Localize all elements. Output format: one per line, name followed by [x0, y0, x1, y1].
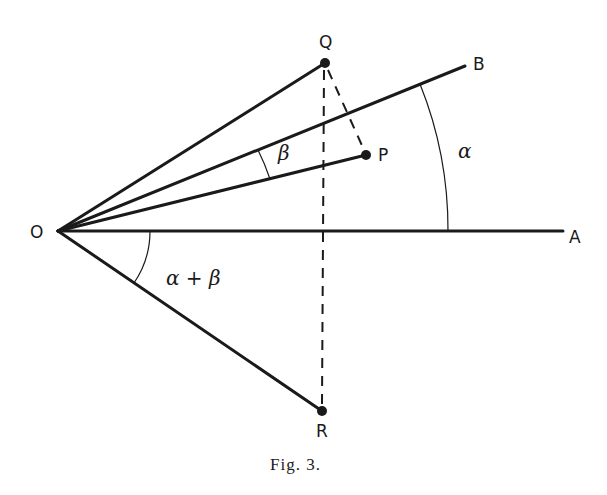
- figure-caption: Fig. 3.: [270, 455, 321, 474]
- label-beta: β: [277, 141, 290, 165]
- arc-alpha-plus-beta: [134, 231, 150, 283]
- label-b: B: [473, 54, 485, 74]
- point-p: [361, 150, 371, 160]
- arc-alpha: [420, 84, 448, 231]
- arc-beta: [258, 150, 270, 179]
- label-q: Q: [319, 32, 332, 52]
- segment-op: [58, 155, 366, 231]
- geometry-figure: O A B Q P R α β α + β Fig. 3.: [0, 0, 607, 495]
- label-a: A: [569, 227, 581, 247]
- label-r: R: [316, 421, 328, 441]
- label-alpha: α: [458, 139, 472, 163]
- label-p: P: [378, 145, 388, 165]
- point-q: [320, 58, 330, 68]
- ray-ob: [58, 66, 465, 231]
- segment-or: [58, 231, 322, 411]
- point-r: [317, 406, 327, 416]
- label-o: O: [30, 222, 43, 242]
- dashed-segment-qr: [322, 70, 324, 404]
- label-alpha-plus-beta: α + β: [166, 266, 221, 290]
- figure-canvas: O A B Q P R α β α + β Fig. 3.: [0, 0, 607, 495]
